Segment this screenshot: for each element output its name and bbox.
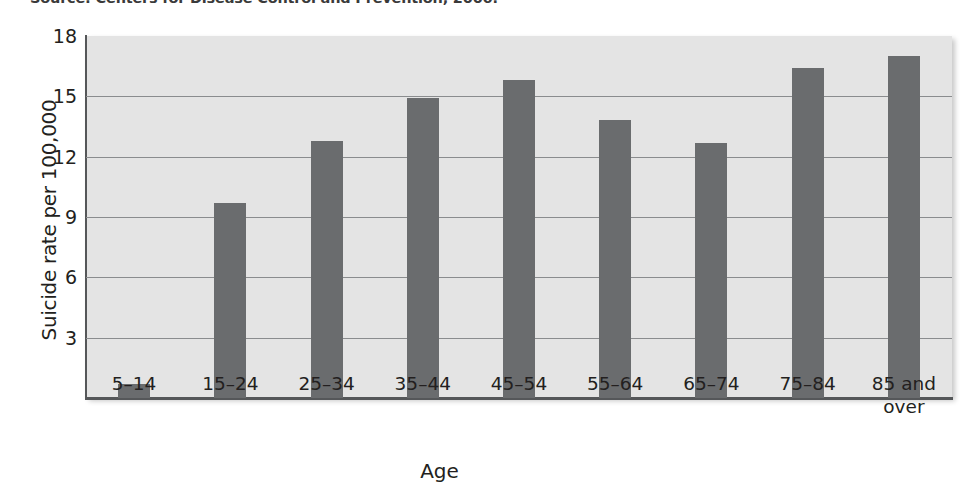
- x-tick-label: 85 and over: [849, 372, 959, 418]
- chart-figure: Source: Centers for Disease Control and …: [0, 0, 979, 499]
- y-tick-label: 18: [53, 25, 77, 47]
- x-tick-label: 75–84: [753, 372, 863, 395]
- y-tick-label: 6: [65, 266, 77, 288]
- y-tick-label: 3: [65, 327, 77, 349]
- bar: [695, 143, 727, 398]
- x-tick-label: 65–74: [656, 372, 766, 395]
- x-axis-title-label: Age: [420, 459, 459, 483]
- bar: [311, 141, 343, 398]
- y-tick-label: 9: [65, 206, 77, 228]
- y-tick-label: 12: [53, 146, 77, 168]
- bar: [214, 203, 246, 398]
- x-tick-label: 25–34: [272, 372, 382, 395]
- bar: [503, 80, 535, 398]
- x-tick-label: 45–54: [464, 372, 574, 395]
- y-tick-label: 15: [53, 85, 77, 107]
- x-tick-label: 5–14: [79, 372, 189, 395]
- bar: [599, 120, 631, 398]
- bar: [792, 68, 824, 398]
- source-note: Source: Centers for Disease Control and …: [30, 0, 498, 6]
- bar: [407, 98, 439, 398]
- plot-wrap: 369121518: [86, 36, 952, 398]
- x-tick-label: 55–64: [560, 372, 670, 395]
- x-tick-label: 35–44: [368, 372, 478, 395]
- x-axis-title: Age: [0, 459, 979, 483]
- bar: [888, 56, 920, 398]
- x-tick-label: 15–24: [175, 372, 285, 395]
